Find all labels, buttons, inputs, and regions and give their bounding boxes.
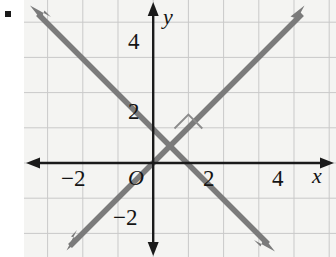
graph-svg: [24, 0, 336, 257]
y-tick-label-2: 2: [128, 100, 140, 123]
y-axis-label: y: [163, 6, 173, 28]
bullet-marker: [5, 11, 11, 17]
origin-label: O: [128, 167, 144, 189]
x-tick-label-2: 2: [203, 167, 215, 190]
x-tick-label-minus2: −2: [61, 167, 85, 190]
panel-background: [24, 0, 336, 257]
x-tick-label-4: 4: [272, 167, 284, 190]
y-tick-label-minus2: −2: [113, 206, 137, 229]
x-axis-label: x: [312, 165, 322, 187]
graph-panel: [24, 0, 336, 257]
figure-root: y x O 4 2 −2 −2 2 4: [0, 0, 336, 257]
y-tick-label-4: 4: [128, 30, 140, 53]
